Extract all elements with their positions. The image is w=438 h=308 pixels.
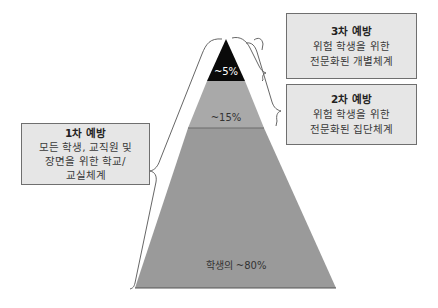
box-line: 전문화된 개별체계 [287,54,416,69]
box-line: 위험 학생을 위한 [287,39,416,54]
box-line: 위험 학생을 위한 [287,107,416,122]
tier-label-primary: 학생의 ~80% [186,257,286,272]
box-title: 1차 예방 [22,126,149,140]
box-line: 모든 학생, 교직원 및 [22,140,149,154]
tier-label-secondary: ~15% [200,112,252,123]
box-primary-prevention: 1차 예방 모든 학생, 교직원 및 장면을 위한 학교/ 교실체계 [21,123,150,185]
box-tertiary-prevention: 3차 예방 위험 학생을 위한 전문화된 개별체계 [286,13,417,79]
box-title: 3차 예방 [287,24,416,39]
tier-label-tertiary: ~5% [206,66,246,77]
box-title: 2차 예방 [287,92,416,107]
box-line: 교실체계 [22,168,149,182]
box-line: 장면을 위한 학교/ [22,154,149,168]
box-line: 전문화된 집단체계 [287,122,416,137]
box-secondary-prevention: 2차 예방 위험 학생을 위한 전문화된 집단체계 [286,84,417,145]
